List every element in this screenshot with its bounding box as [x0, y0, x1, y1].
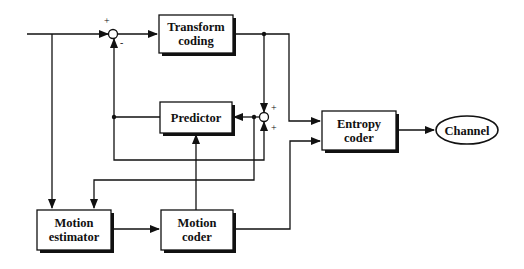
transform-coding-block: Transform coding: [159, 15, 236, 56]
channel-ellipse: Channel: [436, 116, 498, 144]
svg-text:Motion: Motion: [178, 216, 217, 230]
predictor-to-sum1: [114, 39, 160, 117]
svg-text:estimator: estimator: [49, 230, 100, 244]
summer-2: [260, 113, 269, 122]
svg-text:coder: coder: [182, 230, 212, 244]
svg-text:coder: coder: [344, 131, 374, 145]
svg-text:Predictor: Predictor: [171, 111, 222, 125]
predictor-block: Predictor: [160, 102, 235, 136]
video-coder-block-diagram: + - + + Transform coding Predictor Entro…: [0, 0, 524, 269]
sum1-plus-sign: +: [104, 15, 110, 26]
transform-to-entropy: [234, 34, 320, 121]
coder-to-entropy: [233, 141, 320, 229]
junction-dot: [112, 115, 116, 119]
motion-estimator-block: Motion estimator: [37, 210, 114, 253]
svg-text:Channel: Channel: [444, 124, 490, 138]
sum2-plus-bottom: +: [271, 122, 277, 133]
svg-text:coding: coding: [178, 34, 214, 48]
svg-text:Entropy: Entropy: [337, 117, 382, 131]
motion-coder-block: Motion coder: [161, 210, 236, 253]
diagram-svg: + - + + Transform coding Predictor Entro…: [0, 0, 524, 269]
junction-dot: [252, 115, 256, 119]
junction-dot: [262, 32, 266, 36]
summer-1: [109, 30, 118, 39]
svg-text:Motion: Motion: [55, 216, 94, 230]
sum1-minus-sign: -: [120, 37, 123, 48]
entropy-coder-block: Entropy coder: [322, 111, 399, 153]
svg-text:Transform: Transform: [167, 20, 225, 34]
sum2-plus-top: +: [271, 102, 277, 113]
